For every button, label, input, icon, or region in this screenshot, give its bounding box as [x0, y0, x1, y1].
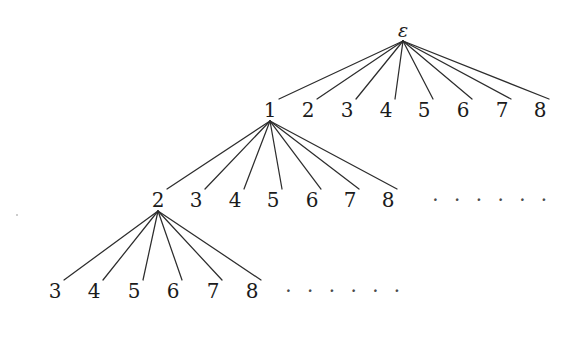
node-label-l1-6: 6: [457, 100, 470, 120]
node-label-l2-3: 4: [229, 190, 242, 210]
stray-speck: [16, 214, 18, 216]
node-label-l3-6: 8: [246, 281, 259, 301]
edge-node2-to-6-3: [158, 211, 182, 280]
edge-node1-to-6-4: [270, 121, 321, 189]
edge-node2-to-7-4: [158, 211, 222, 280]
edge-root-to-6-5: [403, 41, 472, 99]
node-label-l1-8: 8: [534, 100, 547, 120]
edge-node1-to-8-6: [270, 121, 397, 189]
edge-node1-to-3-1: [205, 121, 270, 189]
edge-node1-to-4-2: [244, 121, 270, 189]
node-label-l1-7: 7: [496, 100, 509, 120]
tree-diagram-figure: ε 1 2 3 4 5 6 7 8 2 3 4 5 6 7 8 3 4 5 6 …: [0, 0, 572, 357]
node-label-l1-5: 5: [418, 100, 431, 120]
edge-root-to-7-6: [403, 41, 511, 99]
node-label-l1-4: 4: [380, 100, 393, 120]
edge-root-to-2-1: [317, 41, 403, 99]
node-label-l1-1: 1: [264, 100, 277, 120]
node-label-l3-1: 3: [49, 281, 62, 301]
node-label-l3-2: 4: [88, 281, 101, 301]
edge-node2-to-8-5: [158, 211, 261, 280]
edge-node1-to-5-3: [270, 121, 282, 189]
node-label-l3-5: 7: [207, 281, 220, 301]
node-label-l2-5: 6: [306, 190, 319, 210]
node-label-l1-2: 2: [302, 100, 315, 120]
edges-group: [64, 41, 549, 280]
ellipsis-level2-right: · · · · · ·: [432, 190, 551, 210]
edge-node1-to-7-5: [270, 121, 359, 189]
node-label-root: ε: [398, 21, 408, 40]
ellipsis-level3-right: · · · · · ·: [285, 281, 404, 301]
node-label-l2-4: 5: [267, 190, 280, 210]
node-label-l2-6: 7: [344, 190, 357, 210]
edge-root-to-8-7: [403, 41, 549, 99]
node-label-l2-1: 2: [152, 190, 165, 210]
node-label-l2-2: 3: [190, 190, 203, 210]
node-label-l3-3: 5: [128, 281, 141, 301]
tree-edges-layer: [0, 0, 572, 357]
edge-root-to-1-0: [279, 41, 403, 99]
edge-node1-to-2-0: [167, 121, 270, 189]
node-label-l3-4: 6: [167, 281, 180, 301]
node-label-l2-7: 8: [382, 190, 395, 210]
node-label-l1-3: 3: [341, 100, 354, 120]
